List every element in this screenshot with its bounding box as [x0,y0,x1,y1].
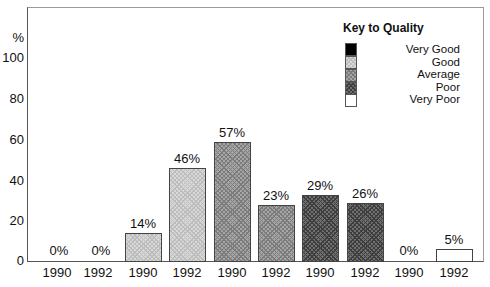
x-label: 1992 [76,265,120,280]
bar-poor-1990 [302,195,339,262]
value-label: 14% [118,216,168,231]
value-label: 5% [429,232,479,247]
y-tick-0: 0 [0,253,24,268]
legend-label-very-good: Very Good [350,43,460,55]
y-tick-40: 40 [0,173,24,188]
legend-title: Key to Quality [343,21,424,35]
x-label: 1992 [432,265,476,280]
x-label: 1990 [35,265,79,280]
bar-average-1990 [214,142,251,262]
x-label: 1990 [387,265,431,280]
x-label: 1992 [165,265,209,280]
value-label: 0% [384,243,434,258]
x-label: 1990 [298,265,342,280]
y-tick-20: 20 [0,213,24,228]
bar-good-1990 [125,233,162,262]
x-label: 1990 [210,265,254,280]
value-label: 26% [340,186,390,201]
value-label: 46% [162,151,212,166]
legend-label-average: Average [350,68,460,80]
legend-label-poor: Poor [350,81,460,93]
y-tick-80: 80 [0,91,24,106]
value-label: 0% [76,243,126,258]
y-axis-unit-label: % [2,30,24,45]
x-label: 1992 [343,265,387,280]
legend-label-very-poor: Very Poor [350,93,460,105]
bar-verypoor-1992 [436,249,473,262]
x-label: 1992 [254,265,298,280]
y-tick-100: 100 [0,50,24,65]
legend-label-good: Good [350,56,460,68]
bar-average-1992 [258,205,295,262]
x-label: 1990 [121,265,165,280]
bar-good-1992 [169,168,206,262]
value-label: 29% [295,178,345,193]
bar-poor-1992 [347,203,384,262]
value-label: 23% [251,188,301,203]
y-tick-60: 60 [0,132,24,147]
value-label: 57% [207,125,257,140]
